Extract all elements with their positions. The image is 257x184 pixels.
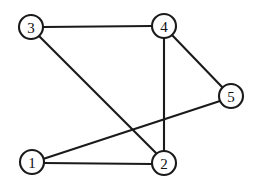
- graph-edge-1-5: [43, 101, 220, 159]
- nodes-layer: 12345: [19, 14, 243, 175]
- graph-diagram: 12345: [0, 0, 257, 184]
- graph-edge-4-5: [172, 35, 223, 88]
- graph-node-2[interactable]: 2: [152, 151, 176, 175]
- graph-edge-3-2: [39, 36, 156, 153]
- graph-node-1[interactable]: 1: [20, 150, 44, 174]
- graph-node-label-1: 1: [28, 155, 36, 171]
- graph-node-label-5: 5: [227, 89, 235, 105]
- graph-node-label-2: 2: [160, 156, 168, 172]
- graph-node-label-4: 4: [160, 19, 168, 35]
- graph-canvas: 12345: [0, 0, 257, 184]
- graph-edge-1-2: [44, 163, 152, 164]
- edges-layer: [39, 26, 223, 164]
- graph-node-4[interactable]: 4: [152, 14, 176, 38]
- graph-edge-3-4: [43, 26, 152, 27]
- graph-node-3[interactable]: 3: [19, 15, 43, 39]
- graph-node-label-3: 3: [27, 20, 35, 36]
- graph-node-5[interactable]: 5: [219, 84, 243, 108]
